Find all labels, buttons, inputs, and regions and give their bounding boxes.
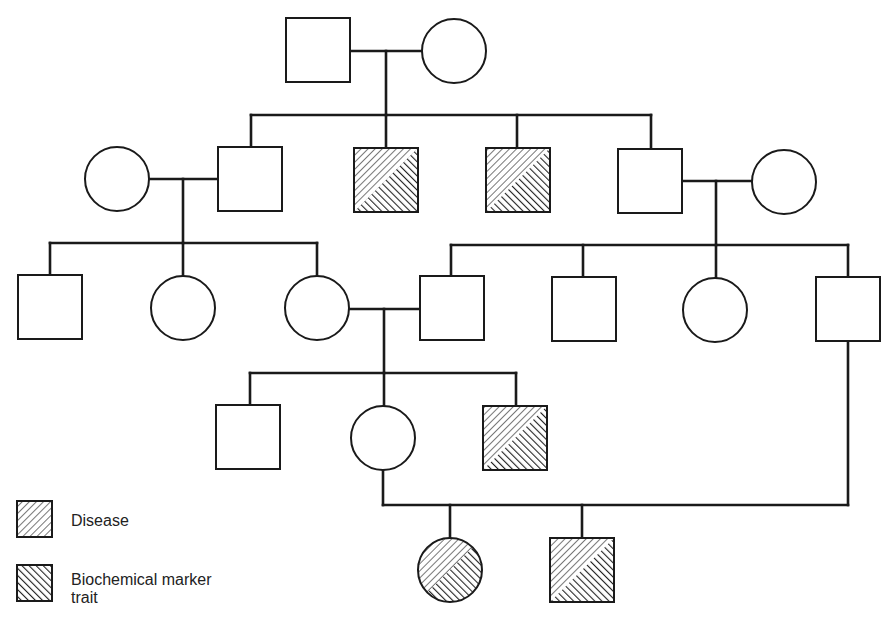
pedigree-chart bbox=[0, 0, 895, 622]
female-individual-III-2 bbox=[151, 276, 215, 340]
male-individual-IV-3 bbox=[483, 406, 547, 470]
legend-marker-label-line1: Biochemical marker bbox=[71, 571, 211, 589]
legend bbox=[17, 501, 52, 601]
male-individual-III-5 bbox=[552, 277, 616, 341]
male-individual-I-1 bbox=[286, 18, 350, 82]
male-individual-III-4 bbox=[420, 276, 484, 340]
male-individual-V-2 bbox=[550, 538, 614, 602]
male-individual-III-7 bbox=[816, 277, 880, 341]
male-individual-II-3 bbox=[354, 148, 418, 212]
male-individual-IV-1 bbox=[216, 405, 280, 469]
female-individual-IV-2 bbox=[351, 406, 415, 470]
male-individual-III-1 bbox=[18, 275, 82, 339]
male-individual-II-5 bbox=[618, 149, 682, 213]
legend-disease-label: Disease bbox=[71, 512, 129, 530]
legend-disease-swatch bbox=[17, 501, 52, 537]
legend-marker-label-line2: trait bbox=[71, 589, 98, 607]
legend-marker-swatch bbox=[17, 565, 52, 601]
female-individual-V-1 bbox=[418, 538, 482, 602]
female-individual-II-6 bbox=[752, 150, 816, 214]
male-individual-II-2 bbox=[218, 147, 282, 211]
female-individual-I-2 bbox=[422, 19, 486, 83]
male-individual-II-4 bbox=[486, 148, 550, 212]
female-individual-II-1 bbox=[85, 147, 149, 211]
female-individual-III-6 bbox=[683, 278, 747, 342]
female-individual-III-3 bbox=[285, 276, 349, 340]
